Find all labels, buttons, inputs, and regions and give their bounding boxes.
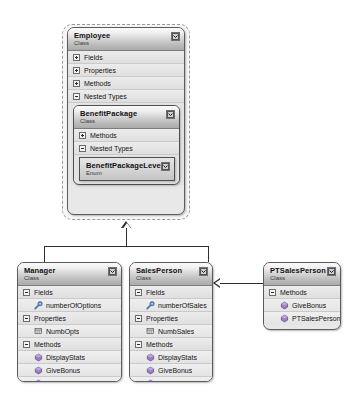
compartment-employee-methods[interactable]: Methods <box>68 77 184 90</box>
compartment-benefitpackage-methods[interactable]: Methods <box>74 129 179 142</box>
member-row[interactable]: NumbSales <box>130 325 212 338</box>
expander-minus-icon[interactable] <box>23 341 30 348</box>
method-icon <box>34 366 43 375</box>
expander-minus-icon[interactable] <box>135 341 142 348</box>
expander-plus-icon[interactable] <box>73 80 80 87</box>
collapse-icon[interactable] <box>108 267 117 276</box>
member-row[interactable]: GiveBonus <box>130 364 212 377</box>
collapse-icon[interactable] <box>199 267 208 276</box>
expander-minus-icon[interactable] <box>135 315 142 322</box>
expander-minus-icon[interactable] <box>23 315 30 322</box>
connector-manager-drop <box>44 246 45 262</box>
class-pt-sales-person[interactable]: PTSalesPerson Class Methods GiveBonus <box>263 262 341 330</box>
enum-benefit-package-level-header[interactable]: BenefitPackageLevel Enum <box>80 158 174 180</box>
compartment-employee-properties[interactable]: Properties <box>68 64 184 77</box>
compartment-label: Methods <box>90 131 117 140</box>
expander-plus-icon[interactable] <box>79 132 86 139</box>
method-icon <box>34 353 43 362</box>
expander-plus-icon[interactable] <box>73 67 80 74</box>
compartment-label: Methods <box>84 79 111 88</box>
compartment-label: Properties <box>34 314 66 323</box>
member-row[interactable]: SalesPerson (+ 1... <box>130 377 212 382</box>
collapse-icon[interactable] <box>161 162 170 171</box>
class-benefit-package-header[interactable]: BenefitPackage Class <box>74 106 179 129</box>
member-label: GiveBonus <box>292 301 326 310</box>
class-sales-person[interactable]: SalesPerson Class Fields numberOfSales <box>129 262 213 382</box>
expander-minus-icon[interactable] <box>135 289 142 296</box>
method-icon <box>34 379 43 382</box>
member-label: GiveBonus <box>158 366 192 375</box>
class-manager[interactable]: Manager Class Fields numberOfOptions <box>17 262 122 382</box>
expander-plus-icon[interactable] <box>73 54 80 61</box>
compartment-manager-properties[interactable]: Properties <box>18 312 121 325</box>
member-row[interactable]: NumbOpts <box>18 325 121 338</box>
compartment-salesperson-methods[interactable]: Methods <box>130 338 212 351</box>
collapse-icon[interactable] <box>171 32 180 41</box>
member-label: SalesPerson (+ 1... <box>158 379 212 382</box>
compartment-label: Fields <box>84 53 103 62</box>
class-employee[interactable]: Employee Class Fields Properties Methods <box>67 27 185 215</box>
member-label: DisplayStats <box>158 353 197 362</box>
class-sales-person-header[interactable]: SalesPerson Class <box>130 263 212 286</box>
enum-benefit-package-level-title: BenefitPackageLevel <box>86 161 170 170</box>
method-icon <box>280 301 289 310</box>
class-benefit-package-kind: Class <box>80 118 175 125</box>
compartment-manager-methods[interactable]: Methods <box>18 338 121 351</box>
member-row[interactable]: PTSalesPerson <box>264 312 340 325</box>
enum-benefit-package-level[interactable]: BenefitPackageLevel Enum <box>79 157 175 181</box>
member-label: Manager (+ 1 ov... <box>46 379 102 382</box>
compartment-label: Properties <box>146 314 178 323</box>
member-label: GiveBonus <box>46 366 80 375</box>
member-label: numberOfSales <box>158 301 207 310</box>
class-employee-header[interactable]: Employee Class <box>68 28 184 51</box>
member-row[interactable]: GiveBonus <box>18 364 121 377</box>
class-manager-header[interactable]: Manager Class <box>18 263 121 286</box>
class-employee-body: Fields Properties Methods Nested Types B… <box>68 51 184 185</box>
class-benefit-package[interactable]: BenefitPackage Class Methods Nested Type… <box>73 105 180 185</box>
member-label: PTSalesPerson <box>292 314 340 323</box>
compartment-label: Methods <box>34 340 61 349</box>
member-label: DisplayStats <box>46 353 85 362</box>
class-benefit-package-title: BenefitPackage <box>80 109 175 118</box>
compartment-ptsalesperson-methods[interactable]: Methods <box>264 286 340 299</box>
compartment-label: Properties <box>84 66 116 75</box>
compartment-label: Methods <box>280 288 307 297</box>
compartment-employee-nested-types[interactable]: Nested Types <box>68 90 184 103</box>
member-row[interactable]: DisplayStats <box>18 351 121 364</box>
class-pt-sales-person-header[interactable]: PTSalesPerson Class <box>264 263 340 286</box>
connector-employee-bus <box>44 246 209 247</box>
class-pt-sales-person-kind: Class <box>270 275 336 282</box>
expander-minus-icon[interactable] <box>269 289 276 296</box>
class-employee-kind: Class <box>74 40 180 47</box>
expander-minus-icon[interactable] <box>23 289 30 296</box>
class-sales-person-title: SalesPerson <box>136 266 208 275</box>
class-diagram-canvas: Employee Class Fields Properties Methods <box>0 0 349 397</box>
compartment-employee-fields[interactable]: Fields <box>68 51 184 64</box>
compartment-salesperson-properties[interactable]: Properties <box>130 312 212 325</box>
property-icon <box>34 327 43 336</box>
member-row[interactable]: numberOfSales <box>130 299 212 312</box>
member-row[interactable]: GiveBonus <box>264 299 340 312</box>
class-manager-title: Manager <box>24 266 117 275</box>
member-label: NumbSales <box>158 327 194 336</box>
class-sales-person-body: Fields numberOfSales Properties <box>130 286 212 382</box>
expander-minus-icon[interactable] <box>73 93 80 100</box>
member-row[interactable]: numberOfOptions <box>18 299 121 312</box>
method-icon <box>146 379 155 382</box>
member-row[interactable]: DisplayStats <box>130 351 212 364</box>
collapse-icon[interactable] <box>327 267 336 276</box>
member-row[interactable]: Manager (+ 1 ov... <box>18 377 121 382</box>
method-icon <box>146 353 155 362</box>
compartment-salesperson-fields[interactable]: Fields <box>130 286 212 299</box>
class-sales-person-kind: Class <box>136 275 208 282</box>
connector-employee-stem <box>126 228 127 246</box>
field-icon <box>146 301 155 310</box>
class-benefit-package-body: Methods Nested Types BenefitPackageLevel… <box>74 129 179 181</box>
expander-minus-icon[interactable] <box>79 145 86 152</box>
inheritance-arrowhead-employee-fill <box>122 223 132 230</box>
collapse-icon[interactable] <box>166 110 175 119</box>
connector-salesperson-drop <box>208 246 209 262</box>
compartment-manager-fields[interactable]: Fields <box>18 286 121 299</box>
field-icon <box>34 301 43 310</box>
compartment-benefitpackage-nested-types[interactable]: Nested Types <box>74 142 179 155</box>
